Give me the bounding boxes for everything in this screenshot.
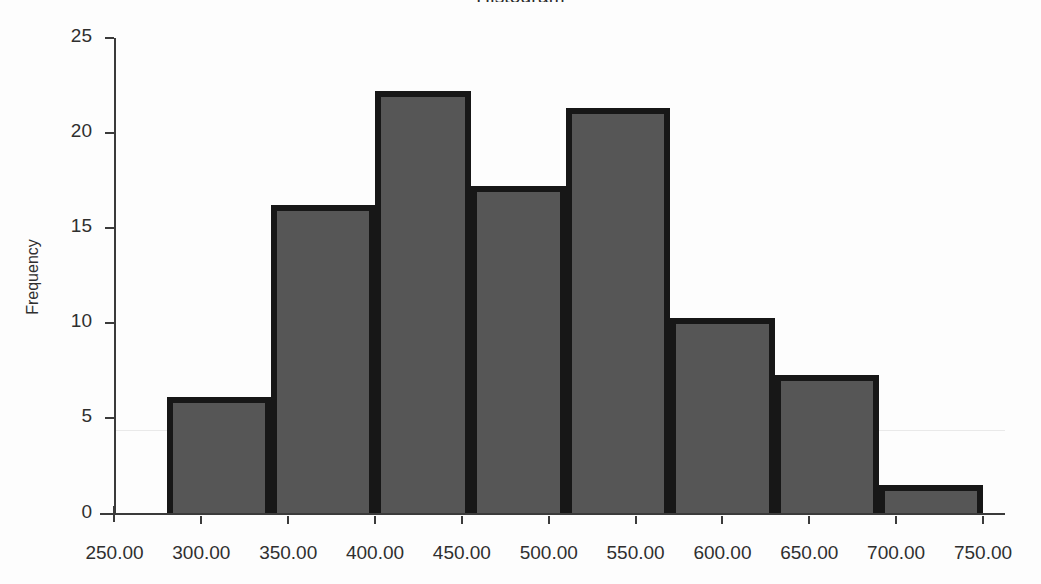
y-axis-tick [105, 132, 114, 134]
y-axis-tick [105, 37, 114, 39]
x-axis-tick [548, 516, 550, 524]
x-axis-tick [461, 516, 463, 524]
histogram-chart: Histogram Frequency 0510152025 250.00300… [0, 0, 1041, 584]
histogram-bar [471, 186, 567, 513]
x-axis-tick [895, 516, 897, 524]
y-axis-tick-label: 10 [30, 310, 92, 332]
y-axis-line [114, 38, 116, 514]
histogram-bar [375, 91, 471, 513]
y-axis-tick-label: 25 [30, 25, 92, 47]
y-axis-tick-label: 0 [30, 501, 92, 523]
x-axis-tick-label: 750.00 [923, 542, 1041, 564]
histogram-bar [271, 205, 375, 513]
x-axis-tick [200, 516, 202, 524]
y-axis-tick [105, 322, 114, 324]
y-axis-tick-label: 15 [30, 215, 92, 237]
x-axis-origin-tick [113, 506, 115, 522]
y-axis-tick-label: 5 [30, 405, 92, 427]
histogram-bar [670, 318, 774, 514]
histogram-bar [775, 375, 879, 514]
x-axis-tick [982, 516, 984, 524]
y-axis-tick [105, 417, 114, 419]
histogram-bar [566, 108, 670, 513]
x-axis-tick [721, 516, 723, 524]
y-axis-tick [105, 227, 114, 229]
y-axis-tick-label: 20 [30, 120, 92, 142]
histogram-bar [167, 397, 271, 513]
x-axis-tick [374, 516, 376, 524]
x-axis-tick [808, 516, 810, 524]
x-axis-line [100, 513, 1005, 515]
plot-area [0, 0, 1041, 584]
x-axis-tick [635, 516, 637, 524]
x-axis-tick [287, 516, 289, 524]
histogram-bar [879, 485, 983, 514]
